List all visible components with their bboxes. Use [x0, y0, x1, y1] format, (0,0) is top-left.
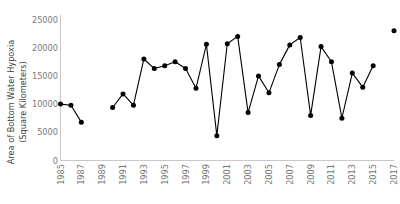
data-point-marker [371, 63, 376, 68]
data-point-marker [256, 73, 261, 78]
data-point-marker [121, 91, 126, 96]
data-point-marker [266, 90, 271, 95]
data-point-marker [339, 116, 344, 121]
data-point-marker [319, 44, 324, 49]
data-point-marker [183, 66, 188, 71]
data-point-marker [141, 56, 146, 61]
data-point-marker [277, 62, 282, 67]
data-point-marker [173, 59, 178, 64]
data-point-marker [298, 35, 303, 40]
data-point-marker [193, 86, 198, 91]
data-point-marker [308, 113, 313, 118]
data-point-marker [287, 42, 292, 47]
data-point-marker [68, 103, 73, 108]
data-point-marker [152, 66, 157, 71]
data-point-marker [350, 71, 355, 76]
series-line-segment [113, 36, 374, 135]
data-point-marker [204, 42, 209, 47]
data-series-lines [61, 36, 374, 135]
plot-area [0, 0, 400, 204]
data-point-marker [329, 59, 334, 64]
data-point-marker [392, 28, 397, 33]
data-point-marker [246, 110, 251, 115]
data-point-marker [162, 63, 167, 68]
data-point-marker [131, 103, 136, 108]
data-point-marker [235, 34, 240, 39]
data-point-marker [214, 133, 219, 138]
data-point-marker [58, 102, 63, 107]
data-point-marker [79, 120, 84, 125]
data-point-marker [110, 105, 115, 110]
axis-lines [61, 15, 395, 161]
data-point-marker [225, 41, 230, 46]
data-point-marker [360, 85, 365, 90]
hypoxia-area-line-chart: Area of Bottom Water Hypoxia (Square Kil… [0, 0, 400, 204]
data-series-markers [58, 28, 397, 138]
